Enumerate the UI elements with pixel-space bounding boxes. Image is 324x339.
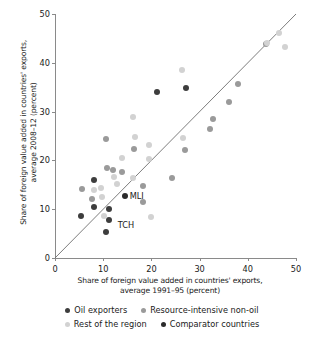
- data-point: [146, 142, 152, 148]
- x-tick-label: 40: [243, 264, 253, 274]
- scatter-chart-figure: Share of foreign value added in countrie…: [0, 0, 324, 339]
- data-point: [98, 185, 104, 191]
- legend-swatch-icon: [161, 322, 166, 327]
- legend-item-comparator-countries[interactable]: Comparator countries: [161, 319, 260, 329]
- data-point: [91, 187, 97, 193]
- data-point: [106, 206, 112, 212]
- legend-swatch-icon: [141, 308, 146, 313]
- x-tick-mark: [151, 258, 152, 261]
- legend-item-oil-exporters[interactable]: Oil exporters: [65, 305, 127, 315]
- y-axis-title-line1: Share of foreign value added in countrie…: [19, 7, 29, 257]
- data-point: [179, 67, 185, 73]
- x-axis-title: Share of foreign value added in countrie…: [30, 276, 310, 297]
- x-tick-mark: [296, 258, 297, 261]
- data-point: [140, 183, 146, 189]
- y-tick-label: 20: [40, 155, 50, 165]
- data-point: [130, 114, 136, 120]
- x-tick-mark: [200, 258, 201, 261]
- data-point: [114, 181, 120, 187]
- y-tick-label: 10: [40, 204, 50, 214]
- data-point: [119, 169, 125, 175]
- data-point: [101, 213, 107, 219]
- y-tick-label: 40: [40, 58, 50, 68]
- x-tick-label: 0: [52, 264, 57, 274]
- x-tick-label: 10: [98, 264, 108, 274]
- data-point: [103, 229, 109, 235]
- data-point: [235, 81, 241, 87]
- data-point: [130, 175, 136, 181]
- data-point: [103, 136, 109, 142]
- point-annotation-label: TCH: [118, 220, 134, 230]
- data-point: [182, 147, 188, 153]
- y-tick-label: 0: [45, 253, 50, 263]
- data-point: [119, 155, 125, 161]
- data-point: [148, 214, 154, 220]
- y-tick-label: 30: [40, 107, 50, 117]
- legend-label: Comparator countries: [170, 319, 260, 329]
- data-point: [146, 156, 152, 162]
- x-tick-label: 30: [194, 264, 204, 274]
- x-axis-title-line2: average 1991–95 (percent): [30, 286, 310, 296]
- legend-row-2: Rest of the region Comparator countries: [0, 317, 324, 331]
- legend-swatch-icon: [65, 322, 70, 327]
- data-point: [169, 175, 175, 181]
- x-axis-line: [55, 258, 296, 259]
- legend-label: Oil exporters: [74, 305, 127, 315]
- data-point: [89, 196, 95, 202]
- data-point: [122, 193, 128, 199]
- y-axis-title-line2: average 2008–12 (percent): [29, 7, 39, 257]
- chart-legend: Oil exporters Resource-intensive non-oil…: [0, 303, 324, 331]
- data-point: [110, 167, 116, 173]
- data-point: [78, 213, 84, 219]
- data-point: [183, 85, 189, 91]
- data-point: [276, 30, 282, 36]
- legend-label: Resource-intensive non-oil: [150, 305, 258, 315]
- x-tick-label: 20: [146, 264, 156, 274]
- legend-swatch-icon: [65, 308, 70, 313]
- legend-label: Rest of the region: [74, 319, 147, 329]
- data-point: [282, 44, 288, 50]
- plot-area: 01020304050 01020304050 MLITCH: [55, 14, 296, 258]
- y-axis-title: Share of foreign value added in countrie…: [19, 7, 40, 257]
- data-point: [132, 134, 138, 140]
- data-point: [154, 89, 160, 95]
- x-axis-title-line1: Share of foreign value added in countrie…: [30, 276, 310, 286]
- x-tick-label: 50: [291, 264, 301, 274]
- data-point: [131, 146, 137, 152]
- point-annotation-label: MLI: [130, 191, 144, 201]
- x-tick-mark: [55, 258, 56, 261]
- data-point: [99, 194, 105, 200]
- data-point: [226, 99, 232, 105]
- legend-row-1: Oil exporters Resource-intensive non-oil: [0, 303, 324, 317]
- data-point: [79, 186, 85, 192]
- legend-item-rest-of-the-region[interactable]: Rest of the region: [65, 319, 147, 329]
- x-tick-mark: [248, 258, 249, 261]
- data-point: [180, 135, 186, 141]
- legend-item-resource-intensive-non-oil[interactable]: Resource-intensive non-oil: [141, 305, 258, 315]
- forty-five-degree-reference-line: [55, 14, 296, 258]
- data-point: [106, 217, 112, 223]
- data-point: [207, 126, 213, 132]
- data-point: [91, 204, 97, 210]
- y-tick-label: 50: [40, 9, 50, 19]
- data-point: [111, 174, 117, 180]
- x-tick-mark: [103, 258, 104, 261]
- data-point: [210, 116, 216, 122]
- data-point: [264, 40, 270, 46]
- data-point: [91, 177, 97, 183]
